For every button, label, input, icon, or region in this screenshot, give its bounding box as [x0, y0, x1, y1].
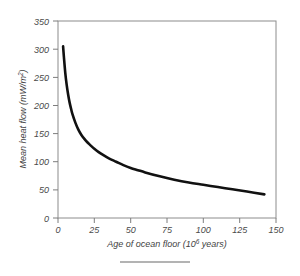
- plot-border: [58, 21, 276, 218]
- x-axis-ticks: [58, 218, 276, 223]
- y-tick-label-350: 350: [34, 17, 49, 27]
- x-axis-title-main: Age of ocean floor (10: [106, 239, 196, 249]
- y-axis-tick-labels: 0 50 100 150 200 250 300 350: [33, 17, 49, 224]
- x-tick-label-0: 0: [55, 225, 60, 235]
- y-tick-label-50: 50: [39, 185, 49, 195]
- y-axis-title-main: Mean heat flow (mW/m: [18, 76, 28, 169]
- y-axis-title-tail: ): [18, 69, 28, 73]
- x-tick-label-150: 150: [268, 225, 283, 235]
- y-tick-label-100: 100: [34, 157, 49, 167]
- y-tick-label-150: 150: [34, 129, 49, 139]
- chart-figure: 0 50 100 150 200 250 300 350 0 25 50 75 …: [0, 0, 300, 276]
- y-axis-ticks: [53, 21, 58, 218]
- x-tick-label-100: 100: [196, 225, 211, 235]
- y-axis-title: Mean heat flow (mW/m2): [17, 69, 28, 168]
- x-tick-label-75: 75: [162, 225, 173, 235]
- y-tick-label-250: 250: [33, 73, 49, 83]
- heat-flow-line-chart: 0 50 100 150 200 250 300 350 0 25 50 75 …: [0, 0, 300, 276]
- x-axis-title: Age of ocean floor (106 years): [106, 238, 227, 249]
- x-tick-label-125: 125: [232, 225, 248, 235]
- y-tick-label-0: 0: [44, 214, 49, 224]
- y-tick-label-300: 300: [34, 45, 49, 55]
- y-tick-label-200: 200: [33, 101, 49, 111]
- plot-frame: [58, 21, 276, 218]
- heat-flow-curve: [63, 46, 264, 194]
- x-axis-tick-labels: 0 25 50 75 100 125 150: [55, 225, 283, 235]
- x-tick-label-50: 50: [126, 225, 136, 235]
- x-axis-title-tail: years): [199, 239, 227, 249]
- x-tick-label-25: 25: [88, 225, 100, 235]
